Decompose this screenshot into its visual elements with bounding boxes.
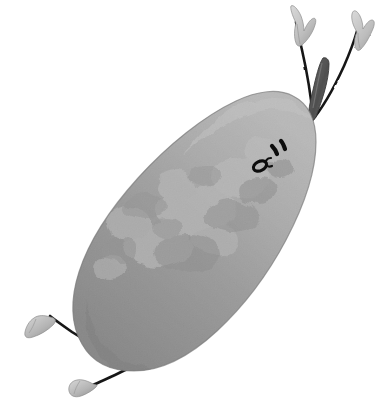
pear-character-illustration: [0, 0, 390, 411]
pear-body: [60, 80, 330, 385]
illustration-canvas: A grey mottled pear drawn as a cartoon c…: [0, 0, 390, 411]
right-foot-icon: [69, 380, 97, 397]
left-foot-icon: [25, 316, 56, 338]
left-hand-icon: [291, 6, 316, 46]
right-hand-icon: [352, 11, 375, 51]
